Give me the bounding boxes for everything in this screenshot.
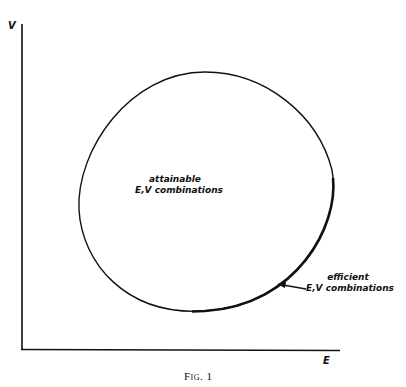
efficient-label-line1: efficient xyxy=(306,272,390,283)
attainable-region-label: attainable E,V combinations xyxy=(135,174,215,196)
attainable-label-line1: attainable xyxy=(135,174,215,185)
efficient-region-label: efficient E,V combinations xyxy=(306,272,390,294)
attainable-label-line2: E,V combinations xyxy=(135,185,215,196)
x-axis xyxy=(21,350,340,351)
y-axis-label: V xyxy=(8,20,16,31)
efficient-arrow-shaft xyxy=(283,285,306,289)
x-axis-label: E xyxy=(323,355,330,366)
figure-caption: Fig. 1 xyxy=(184,370,213,382)
efficient-label-line2: E,V combinations xyxy=(306,283,390,294)
